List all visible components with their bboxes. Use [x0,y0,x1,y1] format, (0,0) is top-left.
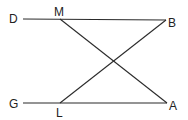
label-L: L [56,106,63,120]
label-B: B [168,16,176,30]
label-M: M [54,5,64,19]
line-LB [60,20,166,103]
label-G: G [9,97,18,111]
line-DB [23,19,166,20]
geometry-diagram: D M B G L A [0,0,188,120]
label-A: A [169,99,177,113]
label-D: D [9,12,18,26]
